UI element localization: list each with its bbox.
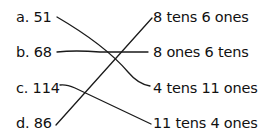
right-item-1: 8 tens 6 ones	[153, 8, 249, 26]
item-value: 51	[34, 9, 52, 25]
right-item-3: 4 tens 11 ones	[153, 79, 258, 97]
item-letter: a.	[16, 9, 29, 25]
item-letter: b.	[16, 44, 29, 60]
item-value: 68	[34, 44, 52, 60]
right-item-4: 11 tens 4 ones	[153, 114, 258, 132]
item-letter: d.	[16, 115, 29, 131]
right-item-2: 8 ones 6 tens	[153, 43, 249, 61]
left-item-a: a. 51	[16, 8, 52, 26]
left-item-b: b. 68	[16, 43, 52, 61]
item-value: 86	[34, 115, 52, 131]
item-value: 114	[33, 80, 60, 96]
line-b-to-8-ones-6-tens	[57, 51, 148, 52]
left-item-d: d. 86	[16, 114, 52, 132]
item-letter: c.	[16, 80, 28, 96]
left-item-c: c. 114	[16, 79, 60, 97]
line-d-to-8-tens-6-ones	[56, 18, 152, 125]
